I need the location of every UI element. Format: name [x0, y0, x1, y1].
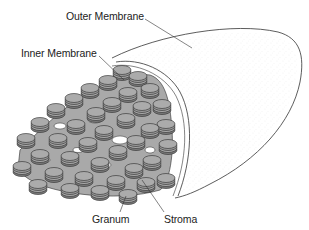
inner-membrane-label: Inner Membrane	[21, 48, 97, 59]
granum-label: Granum	[92, 214, 129, 225]
chloroplast-illustration	[0, 0, 309, 230]
stroma-label: Stroma	[164, 214, 197, 225]
chloroplast-diagram: Outer Membrane Inner Membrane Granum Str…	[0, 0, 309, 230]
outer-membrane-label: Outer Membrane	[66, 11, 144, 22]
